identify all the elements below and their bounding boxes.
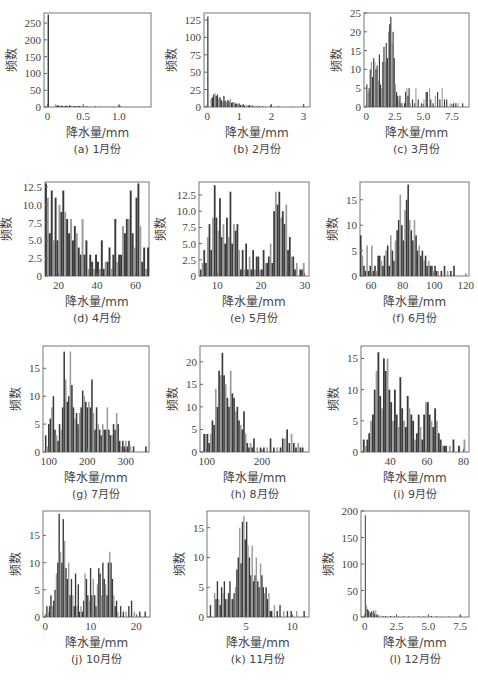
histogram-bar: [237, 224, 239, 276]
y-tick-label: 10: [193, 551, 205, 563]
histogram-bar: [374, 266, 376, 276]
histogram-bar: [390, 235, 392, 276]
histogram-bar: [291, 257, 293, 276]
histogram-bar: [122, 441, 124, 452]
histogram-bar: [103, 269, 105, 276]
histogram-bar: [65, 568, 66, 617]
histogram-bar: [58, 105, 59, 107]
histogram-bar: [369, 88, 370, 107]
histogram-bar: [62, 191, 64, 276]
histogram-bar: [98, 568, 99, 617]
histogram-bar: [83, 601, 84, 617]
histogram-bar: [432, 103, 433, 107]
histogram-bar: [284, 224, 286, 276]
histogram-bar: [240, 425, 242, 452]
histogram-bar: [214, 593, 215, 617]
histogram-bar: [254, 270, 256, 276]
histogram-bar: [277, 205, 279, 276]
histogram-bar: [366, 84, 367, 107]
histogram-bar: [376, 371, 378, 452]
histogram-bar: [54, 590, 55, 617]
histogram-bar: [113, 595, 114, 617]
plot-frame: [199, 182, 309, 276]
histogram-bar: [210, 605, 211, 617]
histogram-bar: [58, 205, 60, 276]
histogram-bar: [405, 427, 407, 452]
histogram-bar: [139, 612, 140, 617]
plot-frame: [45, 182, 149, 276]
histogram-bar: [104, 430, 106, 452]
histogram-bar: [119, 105, 120, 107]
histogram-bar: [248, 106, 249, 107]
histogram-bar: [286, 429, 288, 452]
histogram-bar: [100, 435, 102, 452]
histogram-bar: [219, 198, 221, 276]
histogram-bar: [279, 605, 280, 617]
histogram-bar: [239, 104, 240, 107]
histogram-bar: [261, 575, 262, 617]
histogram-bar: [437, 92, 438, 107]
y-tick-label: 5.0: [28, 234, 42, 246]
histogram-bar: [46, 606, 47, 617]
histogram-bar: [403, 616, 404, 617]
x-axis-label: 降水量/mm: [204, 292, 304, 309]
histogram-bar: [85, 240, 87, 276]
histogram-bar: [214, 185, 216, 276]
histogram-bar: [367, 92, 368, 107]
y-tick-label: 0: [36, 101, 42, 113]
histogram-bar: [370, 69, 371, 107]
histogram-h: 05101520100200频数: [0, 0, 478, 682]
histogram-bar: [405, 92, 406, 107]
histogram-bar: [132, 233, 134, 276]
histogram-bar: [407, 185, 409, 276]
histogram-bar: [69, 595, 70, 617]
histogram-bar: [104, 579, 105, 617]
histogram-bar: [101, 595, 102, 617]
y-tick-label: 50: [190, 66, 202, 78]
subplot-caption: (k) 11月份: [208, 650, 308, 666]
y-tick-label: 0: [35, 611, 41, 623]
histogram-bar: [68, 563, 69, 617]
histogram-bar: [212, 218, 214, 276]
histogram-bar: [378, 81, 379, 107]
histogram-bar: [94, 430, 96, 452]
histogram-bar: [303, 263, 305, 276]
histogram-bar: [106, 595, 107, 617]
histogram-bar: [250, 443, 252, 452]
histogram-bar: [301, 270, 303, 276]
histogram-bar: [78, 248, 80, 276]
histogram-bar: [360, 235, 362, 276]
histogram-bar: [423, 616, 424, 617]
histogram-bar: [218, 599, 219, 617]
histogram-bar: [254, 575, 255, 617]
histogram-bar: [363, 266, 365, 276]
histogram-bar: [82, 391, 84, 452]
y-tick-label: 0: [353, 446, 359, 458]
plot-frame: [361, 346, 469, 452]
histogram-bar: [223, 224, 225, 276]
histogram-bar: [372, 77, 373, 107]
histogram-bar: [296, 263, 298, 276]
histogram-bar: [426, 266, 428, 276]
plot-frame: [204, 13, 310, 107]
histogram-bar: [233, 224, 235, 276]
histogram-bar: [439, 99, 440, 107]
histogram-bar: [446, 99, 447, 107]
x-tick-label: 30: [299, 279, 311, 291]
histogram-bar: [226, 102, 227, 107]
histogram-bar: [117, 424, 119, 452]
y-tick-label: 0: [196, 101, 202, 113]
histogram-bar: [145, 612, 146, 617]
histogram-bar: [365, 515, 366, 617]
histogram-bar: [379, 256, 381, 276]
x-tick-label: 40: [385, 455, 397, 467]
histogram-bar: [395, 84, 396, 107]
y-axis-label: 频数: [329, 48, 344, 72]
plot-frame: [361, 511, 469, 617]
histogram-bar: [232, 102, 233, 107]
histogram-bar: [373, 58, 374, 107]
histogram-bar: [247, 546, 248, 617]
histogram-bar: [123, 612, 124, 617]
histogram-bar: [435, 96, 436, 107]
histogram-bar: [381, 261, 383, 276]
